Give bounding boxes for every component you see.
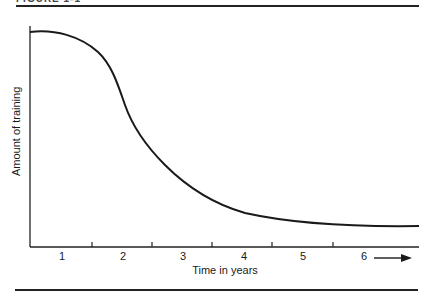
x-tick-label-3: 3 [173, 250, 193, 262]
x-tick-label-6: 6 [354, 250, 374, 262]
x-tick-label-2: 2 [113, 250, 133, 262]
x-axis-ticks [92, 242, 333, 247]
x-tick-label-1: 1 [52, 250, 72, 262]
y-axis-label: Amount of training [10, 87, 22, 176]
x-tick-label-5: 5 [293, 250, 313, 262]
arrow-icon [374, 254, 412, 262]
bottom-rule [15, 289, 418, 291]
x-tick-label-4: 4 [234, 250, 254, 262]
training-curve [30, 31, 419, 226]
x-axis-label: Time in years [150, 264, 300, 276]
